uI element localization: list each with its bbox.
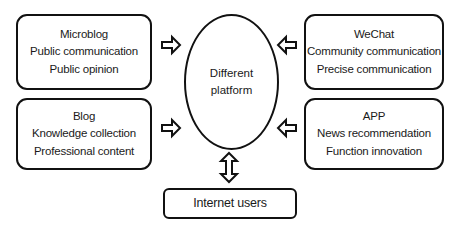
microblog-feature-1: Public communication bbox=[30, 43, 138, 61]
app-box: APP News recommendation Function innovat… bbox=[304, 98, 444, 170]
wechat-box: WeChat Community communication Precise c… bbox=[304, 14, 444, 90]
blog-box: Blog Knowledge collection Professional c… bbox=[16, 98, 152, 170]
arrow-right-icon bbox=[162, 37, 180, 53]
microblog-title: Microblog bbox=[60, 26, 108, 44]
app-title: APP bbox=[363, 108, 385, 126]
different-platform-ellipse: Different platform bbox=[184, 14, 279, 150]
microblog-feature-2: Public opinion bbox=[50, 61, 119, 79]
wechat-feature-1: Community communication bbox=[307, 43, 441, 61]
wechat-title: WeChat bbox=[354, 26, 394, 44]
arrow-left-icon bbox=[278, 37, 296, 53]
arrow-up-down-icon bbox=[221, 153, 237, 182]
ellipse-label-line-2: platform bbox=[211, 82, 253, 99]
arrow-right-icon bbox=[162, 120, 180, 136]
app-feature-2: Function innovation bbox=[326, 143, 422, 161]
internet-users-box: Internet users bbox=[163, 188, 297, 219]
wechat-feature-2: Precise communication bbox=[317, 61, 432, 79]
blog-title: Blog bbox=[73, 108, 95, 126]
blog-feature-2: Professional content bbox=[34, 143, 134, 161]
microblog-box: Microblog Public communication Public op… bbox=[16, 14, 152, 90]
app-feature-1: News recommendation bbox=[317, 125, 431, 143]
arrow-left-icon bbox=[278, 120, 296, 136]
ellipse-label-line-1: Different bbox=[210, 65, 253, 82]
blog-feature-1: Knowledge collection bbox=[32, 125, 136, 143]
internet-users-label: Internet users bbox=[193, 195, 267, 213]
